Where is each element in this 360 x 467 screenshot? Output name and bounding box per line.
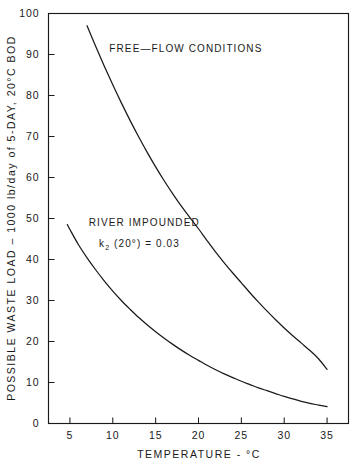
x-axis-tick-labels: 5101520253035	[67, 429, 334, 441]
river-impounded-annotation: RIVER IMPOUNDED	[89, 217, 200, 228]
free-flow-annotation: FREE—FLOW CONDITIONS	[109, 43, 262, 54]
y-tick-label: 70	[26, 130, 39, 142]
y-tick-label: 40	[26, 253, 39, 265]
x-axis-title: TEMPERATURE - °C	[137, 448, 261, 460]
y-tick-label: 100	[19, 7, 39, 19]
x-tick-label: 15	[149, 429, 162, 441]
free-flow-curve	[87, 26, 327, 370]
y-axis-ticks	[49, 55, 55, 383]
x-tick-label: 10	[106, 429, 119, 441]
k2-coefficient-annotation: k2 (20°) = 0.03	[99, 238, 180, 251]
chart-svg: 0102030405060708090100 5101520253035 FRE…	[0, 0, 360, 467]
y-axis-title: POSSIBLE WASTE LOAD – 1000 lb/day of 5-D…	[5, 35, 17, 401]
k2-suffix: (20°) = 0.03	[110, 238, 180, 249]
y-axis-tick-labels: 0102030405060708090100	[19, 7, 39, 429]
y-tick-label: 10	[26, 376, 39, 388]
y-tick-label: 60	[26, 171, 39, 183]
x-tick-label: 20	[192, 429, 205, 441]
x-tick-label: 25	[235, 429, 248, 441]
y-tick-label: 20	[26, 335, 39, 347]
y-tick-label: 30	[26, 294, 39, 306]
x-axis-ticks	[70, 418, 327, 424]
y-tick-label: 80	[26, 89, 39, 101]
x-tick-label: 30	[277, 429, 290, 441]
y-tick-label: 90	[26, 48, 39, 60]
y-tick-label: 50	[26, 212, 39, 224]
x-tick-label: 35	[320, 429, 333, 441]
y-tick-label: 0	[33, 417, 40, 429]
x-tick-label: 5	[67, 429, 74, 441]
river-impounded-curve	[67, 225, 327, 407]
chart-figure: 0102030405060708090100 5101520253035 FRE…	[0, 0, 360, 467]
